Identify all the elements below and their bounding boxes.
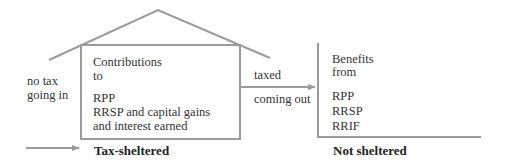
contributions-heading: Contributions (93, 55, 162, 69)
diagram-lines (0, 0, 506, 164)
tax-shelter-diagram: no tax going in Contributions to RPP RRS… (0, 0, 506, 164)
house-item-rpp: RPP (93, 91, 115, 105)
house-item-rrsp: RRSP and capital gains (93, 105, 210, 119)
no-tax-label: no tax (27, 74, 58, 88)
benefit-item-rrsp: RRSP (332, 104, 363, 118)
house-roof (49, 10, 270, 60)
benefits-heading: Benefits (332, 52, 374, 66)
going-in-label: going in (27, 88, 68, 102)
taxed-label: taxed (254, 68, 281, 82)
tax-sheltered-caption: Tax-sheltered (94, 144, 169, 158)
benefit-item-rrif: RRIF (332, 119, 360, 133)
coming-out-label: coming out (254, 92, 311, 106)
benefit-item-rpp: RPP (332, 89, 354, 103)
contributions-to: to (93, 69, 103, 83)
benefits-from: from (332, 65, 356, 79)
not-sheltered-caption: Not sheltered (333, 144, 407, 158)
house-item-interest: and interest earned (93, 119, 187, 133)
